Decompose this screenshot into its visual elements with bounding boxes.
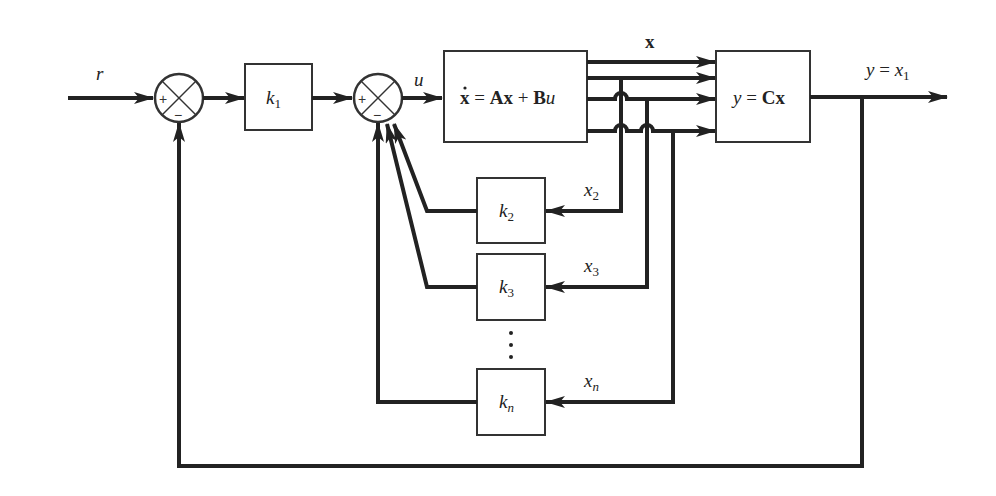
state-feedback-diagram: r + − k1 + − u x = Ax + Bu x bbox=[0, 0, 996, 496]
label-x2: x2 bbox=[583, 179, 599, 203]
label-state-vector: x bbox=[645, 31, 655, 52]
xdot: x bbox=[460, 87, 470, 108]
label-x3: x3 bbox=[583, 255, 599, 279]
plus-sign: + bbox=[358, 91, 366, 107]
feedback-k3 bbox=[387, 124, 477, 287]
output-signal-y: y = x1 bbox=[810, 59, 947, 97]
svg-text:y = x1: y = x1 bbox=[864, 59, 910, 83]
label-xn: xn bbox=[583, 370, 599, 394]
label-r: r bbox=[96, 63, 104, 84]
plant-block: x = Ax + Bu bbox=[444, 51, 587, 142]
svg-text:x = Ax + Bu: x = Ax + Bu bbox=[460, 87, 555, 108]
control-signal-u: u bbox=[402, 69, 442, 98]
plus-sign: + bbox=[159, 91, 167, 107]
summing-junction-2: + − bbox=[354, 74, 402, 123]
derivative-dot bbox=[463, 86, 466, 89]
svg-text:y = Cx: y = Cx bbox=[731, 87, 785, 108]
gain-block-k2: k2 bbox=[477, 178, 545, 243]
label-u: u bbox=[414, 69, 424, 90]
summing-junction-1: + − bbox=[155, 74, 203, 123]
input-signal-r: r bbox=[68, 63, 153, 98]
output-block: y = Cx bbox=[716, 51, 810, 142]
state-bus bbox=[587, 62, 715, 131]
minus-sign: − bbox=[174, 107, 182, 123]
feedback-kn bbox=[378, 123, 477, 402]
minus-sign: − bbox=[373, 107, 381, 123]
tap-xn bbox=[546, 131, 673, 402]
gain-block-k1: k1 bbox=[245, 64, 312, 130]
gain-block-kn: kn bbox=[477, 369, 545, 435]
gain-block-k3: k3 bbox=[477, 254, 545, 320]
ellipsis-dots bbox=[509, 331, 513, 359]
